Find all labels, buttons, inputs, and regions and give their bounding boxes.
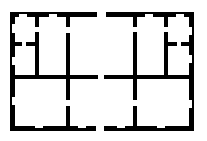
wall-v-lower-left-bottom [66, 106, 70, 131]
wall-h-right-stub-2 [181, 42, 194, 46]
wall-v-right-2-bottom [164, 32, 168, 79]
wall-h-right-stub-1 [164, 42, 177, 46]
wall-v-left-1-top [35, 12, 39, 27]
niche-right-upper [189, 27, 192, 35]
niche-left-lower [12, 97, 15, 105]
niche-top-right-center [145, 14, 153, 17]
floor-plan [0, 0, 207, 141]
wall-h-left-stub-1 [10, 42, 22, 46]
niche-top-left-center [49, 14, 57, 17]
wall-v-right-1-bottom [133, 32, 137, 79]
wall-v-left-2-bottom [66, 33, 70, 79]
niche-bottom-right [157, 126, 165, 128]
niche-bottom-center-left [78, 126, 86, 128]
wall-v-right-2-top [164, 12, 168, 27]
wall-v-left-2-top [66, 12, 70, 27]
niche-left-mid [12, 57, 15, 65]
niche-top-left [19, 14, 27, 17]
niche-bottom-center-right [117, 126, 125, 128]
wall-v-lower-right-top [133, 75, 137, 100]
niche-right-lower [189, 100, 192, 108]
wall-h-left-stub-2 [26, 42, 39, 46]
niche-bottom-left [35, 126, 43, 128]
niche-left-upper [12, 24, 15, 33]
wall-v-lower-right-bottom [133, 106, 137, 131]
wall-v-left-1-bottom [35, 32, 39, 79]
niche-right-mid [189, 55, 192, 63]
wall-v-right-1-top [133, 12, 137, 27]
middle-wall-right [104, 75, 194, 79]
wall-v-lower-left-top [66, 75, 70, 100]
middle-wall-left [10, 75, 98, 79]
niche-top-right [176, 14, 184, 17]
